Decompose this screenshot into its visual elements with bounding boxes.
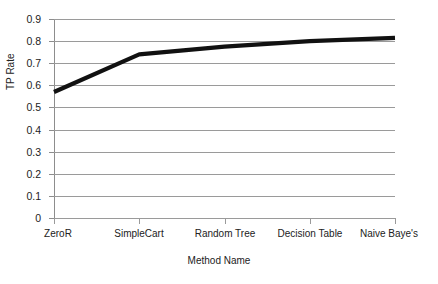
y-axis-tick-label: 0.5	[26, 102, 41, 112]
y-axis-tick	[49, 41, 54, 42]
y-axis-tick	[49, 19, 54, 20]
y-axis-tick	[49, 107, 54, 108]
y-axis-tick-label: 0.6	[26, 80, 41, 90]
x-axis-tick	[225, 218, 226, 224]
chart-container: 00.10.20.30.40.50.60.70.80.9 ZeroRSimple…	[0, 0, 438, 284]
y-axis-tick	[49, 130, 54, 131]
x-axis-tick	[54, 218, 55, 224]
x-axis-tick-label: Naive Baye's	[360, 228, 418, 239]
x-axis-tick-label: ZeroR	[44, 228, 72, 239]
y-axis-tick-label: 0.2	[26, 169, 41, 179]
y-axis-tick-label: 0.8	[26, 36, 41, 46]
gridline	[54, 63, 395, 64]
y-axis-title: TP Rate	[5, 54, 16, 91]
y-axis-tick	[49, 196, 54, 197]
x-axis-title: Method Name	[0, 255, 438, 266]
gridline	[54, 152, 395, 153]
gridline	[54, 130, 395, 131]
x-axis-tick-label: SimpleCart	[114, 228, 163, 239]
gridline	[54, 19, 395, 20]
y-axis-tick	[49, 152, 54, 153]
x-axis-tick-label: Decision Table	[278, 228, 343, 239]
y-axis-tick-label: 0	[35, 213, 41, 223]
y-axis-tick-label: 0.3	[26, 147, 41, 157]
y-axis-tick-label: 0.7	[26, 58, 41, 68]
y-axis-tick-label: 0.4	[26, 125, 41, 135]
gridline	[54, 196, 395, 197]
gridline	[54, 41, 395, 42]
x-axis-tick	[139, 218, 140, 224]
x-axis-tick	[310, 218, 311, 224]
plot-area	[54, 19, 395, 218]
y-axis-tick-label: 0.9	[26, 14, 41, 24]
y-axis-tick	[49, 85, 54, 86]
gridline	[54, 85, 395, 86]
y-axis-tick	[49, 63, 54, 64]
y-axis-tick-label: 0.1	[26, 191, 41, 201]
x-axis-tick	[395, 218, 396, 224]
gridline	[54, 107, 395, 108]
x-axis-tick-label: Random Tree	[195, 228, 256, 239]
gridline	[54, 174, 395, 175]
y-axis-tick	[49, 174, 54, 175]
